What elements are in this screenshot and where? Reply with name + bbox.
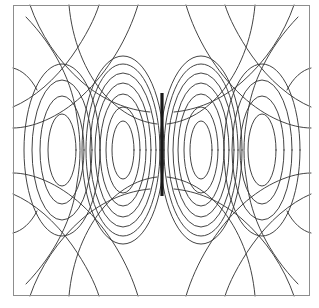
contour-plot-svg [0,0,319,308]
contour-plot-figure [0,0,319,308]
